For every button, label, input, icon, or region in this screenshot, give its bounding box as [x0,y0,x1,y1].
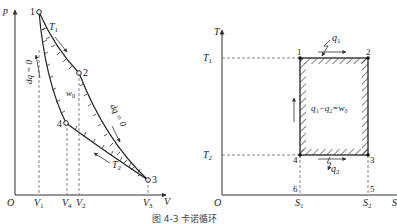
tick-t1: T1 [203,52,213,65]
tick-t2: T2 [203,149,213,162]
ts-point-5-label: 5 [370,184,375,194]
q1-heat-in-arrow [322,40,330,56]
hatch-left [300,58,306,155]
point-2 [77,71,82,76]
ts-point-6-label: 6 [293,184,298,194]
ts-point-4 [298,153,302,157]
point-1-label: 1 [30,6,35,17]
origin-label-right: O [214,197,221,208]
ts-point-1-label: 1 [297,47,302,57]
p-axis-label: p [2,5,8,16]
q1-label: q1 [332,32,341,45]
t-axis-label: T [214,26,221,37]
origin-label: O [7,197,14,208]
curve-3-4-isotherm [66,123,148,180]
hatch-top [300,58,368,64]
arrow-3-4 [94,153,110,163]
q2-label: q2 [331,163,340,176]
tick-s1: S1 [295,197,304,210]
arrow-4-1 [36,55,40,78]
s-axis-label: S [392,197,397,208]
carnot-cycle-figure: p V O [0,0,397,224]
tick-v2: V2 [76,197,86,210]
tick-s2: S2 [363,197,372,210]
hatch-bottom [300,149,368,155]
point-2-label: 2 [83,67,88,78]
point-3 [146,178,151,183]
pv-diagram: p V O [2,5,172,210]
hatch-right [362,58,368,155]
v-axis-label: V [164,196,172,207]
w0-label: w0 [66,88,75,99]
point-4-label: 4 [57,118,62,129]
adiabatic-label-left: dq = 0 [24,59,34,84]
point-1 [37,10,42,15]
ts-point-2-label: 2 [366,47,371,57]
tick-v4: V4 [62,197,72,210]
ts-point-4-label: 4 [293,155,298,165]
ts-point-3-label: 3 [370,155,375,165]
tick-v3: V3 [143,197,153,210]
point-4 [64,121,69,126]
adiabatic-label-right: dq = 0 [108,102,128,128]
ts-diagram: T S O 1 2 3 4 5 6 T1 T2 S1 S2 q1 [203,26,397,210]
t1-label: T1 [49,21,59,34]
point-3-label: 3 [152,174,157,185]
work-equation: q₁−q₂=w₀ [311,103,348,113]
tick-v1: V1 [34,197,44,210]
figure-caption: 图 4-3 卡诺循环 [152,213,217,224]
